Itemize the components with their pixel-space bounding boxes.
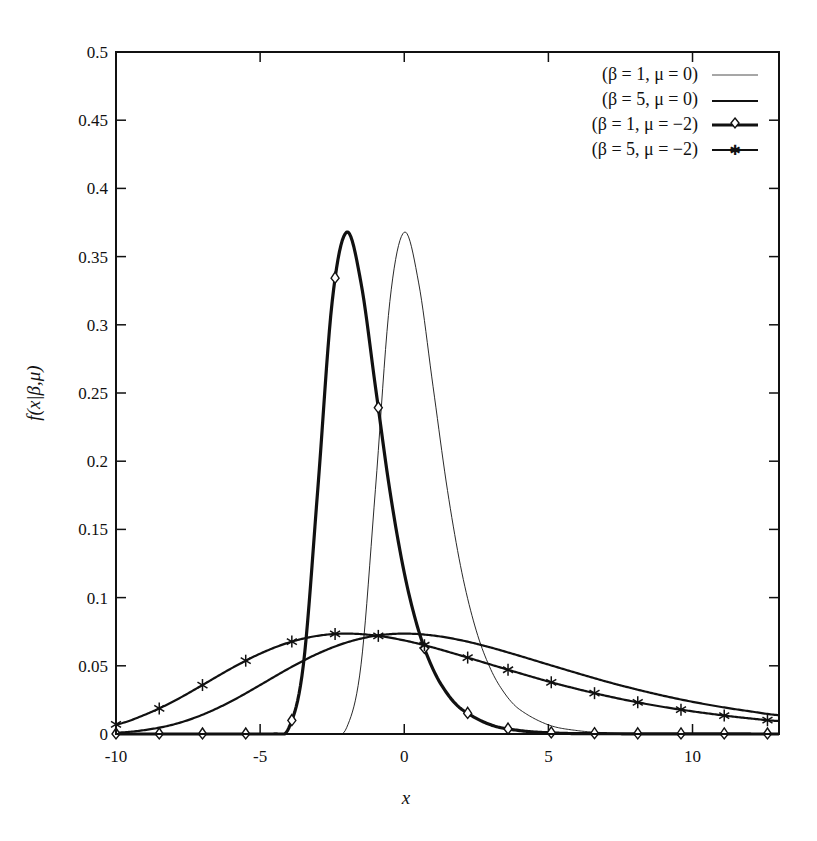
y-tick-label: 0.5 (87, 43, 108, 62)
star-marker-icon: ✱ (729, 142, 741, 158)
x-tick-label: -5 (253, 747, 267, 766)
y-tick-label: 0.25 (78, 384, 108, 403)
legend-label-beta1-mu0: (β = 1, μ = 0) (602, 64, 698, 85)
x-tick-label: 0 (400, 747, 409, 766)
star-marker-icon (197, 679, 207, 691)
y-tick-label: 0 (100, 725, 109, 744)
legend-label-beta5-mu-2: (β = 5, μ = −2) (592, 139, 698, 160)
plot-curves (116, 232, 779, 734)
legend-label-beta5-mu0: (β = 5, μ = 0) (602, 89, 698, 110)
legend: (β = 1, μ = 0) (β = 5, μ = 0) (β = 1, μ … (592, 64, 758, 160)
curve-series-2 (116, 232, 779, 734)
diamond-marker-icon (331, 272, 339, 283)
y-tick-label: 0.15 (78, 520, 108, 539)
x-tick-label: 10 (684, 747, 701, 766)
curve-series-1 (116, 634, 779, 733)
y-tick-label: 0.35 (78, 248, 108, 267)
x-tick-label: 5 (544, 747, 553, 766)
y-axis-label: f(x|β,μ) (23, 365, 45, 420)
y-tick-label: 0.2 (87, 452, 108, 471)
y-tick-label: 0.4 (87, 179, 109, 198)
legend-label-beta1-mu-2: (β = 1, μ = −2) (592, 114, 698, 135)
diamond-marker-icon (504, 723, 512, 734)
star-marker-icon (241, 655, 251, 667)
x-tick-label: -10 (105, 747, 128, 766)
y-tick-label: 0.45 (78, 111, 108, 130)
plot-markers (111, 272, 772, 739)
y-tick-label: 0.3 (87, 316, 108, 335)
y-tick-label: 0.1 (87, 589, 108, 608)
y-tick-label: 0.05 (78, 657, 108, 676)
curve-series-0 (116, 232, 779, 734)
x-axis-label: x (401, 787, 411, 808)
gumbel-pdf-chart: -10-5051000.050.10.150.20.250.30.350.40.… (0, 0, 817, 841)
star-marker-icon (154, 702, 164, 714)
